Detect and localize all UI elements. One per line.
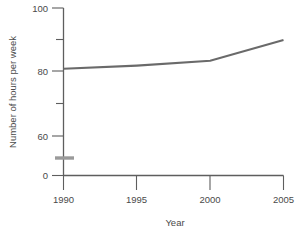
- x-axis-title: Year: [165, 217, 184, 228]
- x-tick-label-2005: 2005: [273, 194, 294, 205]
- y-tick-label-60: 60: [37, 131, 48, 142]
- x-tick-label-1995: 1995: [126, 194, 147, 205]
- line-chart: 100 80 60 0 1990 1995 2000 2005 Year Num…: [0, 0, 305, 235]
- y-tick-label-0: 0: [43, 170, 48, 181]
- x-tick-label-2000: 2000: [199, 194, 220, 205]
- chart-canvas: 100 80 60 0 1990 1995 2000 2005 Year Num…: [0, 0, 305, 235]
- y-tick-label-100: 100: [32, 3, 48, 14]
- y-axis-title: Number of hours per week: [7, 36, 18, 148]
- chart-background: [0, 0, 305, 235]
- y-tick-label-80: 80: [37, 66, 48, 77]
- x-tick-label-1990: 1990: [53, 194, 74, 205]
